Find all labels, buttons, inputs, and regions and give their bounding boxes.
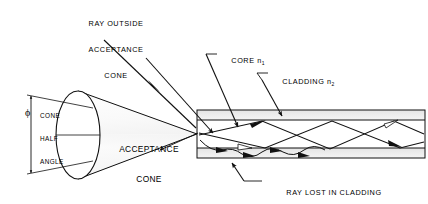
ray-lost-line-1: RAY LOST IN CLADDING (258, 189, 410, 198)
diagram-canvas: RAY OUTSIDE ACCEPTANCE CONE CORE n1 CLAD… (0, 0, 428, 204)
cone-half-angle-line-3: ANGLE (40, 158, 82, 166)
ray-outside-acceptance-cone-label: RAY OUTSIDE ACCEPTANCE CONE (68, 3, 164, 98)
cone-half-angle-label: CONE HALF ANGLE (40, 97, 82, 181)
core-label-subscript: 1 (262, 60, 265, 66)
acceptance-cone-line-2: CONE (103, 174, 195, 184)
acceptance-cone-line-1: ACCEPTANCE (103, 144, 195, 154)
core-label-text: CORE n (231, 56, 261, 65)
cladding-label-subscript: 2 (332, 81, 335, 87)
phi-symbol: ϕ (25, 107, 30, 118)
cone-half-angle-line-2: HALF (40, 135, 82, 143)
ray-outside-line-3: CONE (68, 72, 164, 81)
acceptance-cone-label: ACCEPTANCE CONE (103, 124, 195, 204)
cone-half-angle-line-1: CONE (40, 112, 82, 120)
core-label: CORE n1 (221, 48, 265, 76)
lost-ray-caption-arrow (232, 163, 244, 181)
cladding-label: CLADDING n2 (272, 69, 334, 97)
ray-lost-in-cladding-label: RAY LOST IN CLADDING BY ABSORPTION (258, 172, 410, 204)
fiber-waveguide (197, 110, 425, 158)
cladding-label-text: CLADDING n (282, 77, 331, 86)
ray-outside-line-1: RAY OUTSIDE (68, 20, 164, 29)
ray-outside-line-2: ACCEPTANCE (68, 46, 164, 55)
